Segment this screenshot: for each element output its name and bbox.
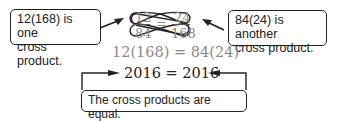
bottom-callout: The cross products are equal. <box>81 90 247 112</box>
denominator-right: 168 <box>171 26 196 41</box>
equation-left: 12(168) <box>112 44 169 60</box>
right-callout-line1: 84(24) is another <box>235 13 320 41</box>
equation-equals: = <box>169 44 190 60</box>
left-callout-line1: 12(168) is one <box>17 12 94 40</box>
proportion-equals: = <box>156 16 167 31</box>
numerator-right: 24 <box>174 10 191 25</box>
denominator-left: 84 <box>135 26 152 41</box>
equation-right: 84(24) <box>191 44 239 60</box>
cross-product-equation: 12(168) = 84(24) <box>112 44 239 60</box>
cross-product-diagram: 12(168) is one cross product. 84(24) is … <box>0 0 347 122</box>
left-callout: 12(168) is one cross product. <box>10 9 101 45</box>
left-callout-line2: cross product. <box>17 40 94 68</box>
right-callout: 84(24) is another cross product. <box>228 10 327 46</box>
result-equation: 2016 = 2016 <box>124 65 219 81</box>
numerator-left: 12 <box>135 10 152 25</box>
right-callout-line2: cross product. <box>235 41 320 55</box>
